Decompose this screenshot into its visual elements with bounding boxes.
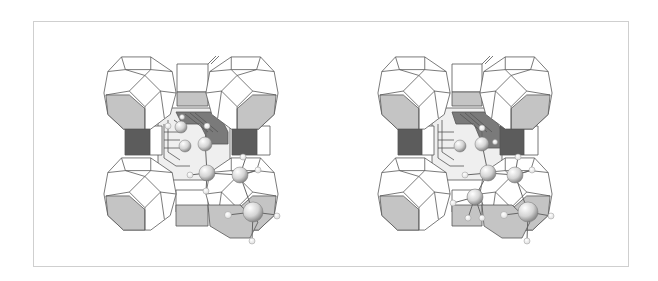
zeolite-framework-left	[90, 40, 300, 250]
stereo-view-right	[360, 40, 570, 250]
stereo-view-left	[90, 40, 300, 250]
zeolite-framework-right	[360, 40, 570, 250]
